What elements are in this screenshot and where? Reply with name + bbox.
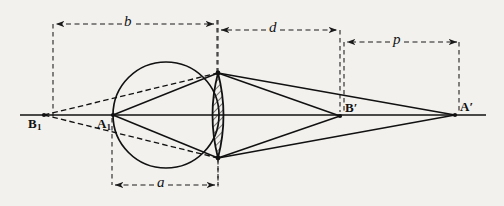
dot-a1 [111,113,115,117]
optical-ray-diagram-figure: B1 A1 B′ A′ b d p a [0,0,504,206]
dot-b1 [42,113,46,117]
biconvex-lens [213,73,224,158]
dot-bprime [338,114,342,118]
ray-lens-top-to-bprime [218,73,340,116]
dot-lens-top [216,71,221,76]
ray-lens-top-to-aprime [218,73,455,115]
ray-b1-to-lens-top [44,73,218,115]
point-label-a1: A1 [97,117,111,132]
point-label-a-prime: A′ [460,100,473,113]
dot-aprime [453,113,457,117]
diagram-canvas [0,0,504,206]
ray-b1-to-lens-bottom [44,115,218,158]
ray-lens-bottom-to-bprime [218,116,340,158]
dimension-label-p: p [393,32,401,47]
ray-lens-bottom-to-aprime [218,115,455,158]
point-label-b-prime: B′ [345,101,358,114]
point-label-b1: B1 [28,117,42,132]
dimension-label-b: b [124,14,132,29]
dimension-label-d: d [269,20,277,35]
dot-lens-bottom [216,156,221,161]
dimension-label-a: a [157,175,165,190]
